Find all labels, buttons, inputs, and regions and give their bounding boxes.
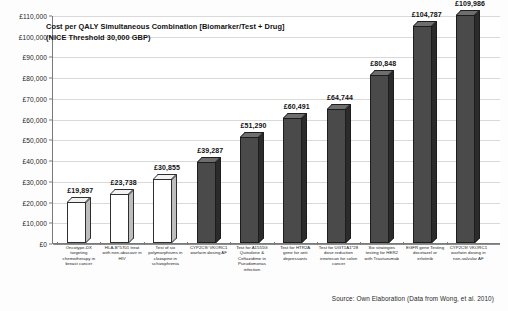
y-axis-tick-mark: [49, 161, 52, 162]
bar[interactable]: [283, 118, 302, 243]
y-axis-tick-mark: [49, 78, 52, 79]
x-axis-labels: Oncotype-DX targeting chemotherapy in br…: [52, 245, 500, 291]
x-axis-tick-mark: [100, 242, 101, 245]
bar-value-label: £39,287: [197, 147, 223, 154]
x-axis-tick-mark: [187, 242, 188, 245]
y-axis-tick-label: £30,000: [22, 178, 52, 185]
y-axis-tick-label: £70,000: [22, 95, 52, 102]
y-axis-tick-mark: [49, 119, 52, 120]
bar-value-label: £51,290: [240, 122, 266, 129]
x-axis-tick-mark: [57, 242, 58, 245]
bar-value-label: £64,744: [327, 94, 353, 101]
bar-side-face: [216, 157, 221, 243]
bar[interactable]: [413, 26, 432, 243]
x-axis-category-label: CYP2C9/ VKORC1 warfarin dosing in non-va…: [448, 245, 488, 261]
bar-side-face: [432, 21, 437, 243]
chart-title-line-1: Cost per QALY Simultaneous Combination […: [46, 22, 346, 33]
y-axis-tick-mark: [49, 98, 52, 99]
bar-series: £19,897£23,738£30,855£39,287£51,290£60,4…: [53, 16, 500, 243]
bar-value-label: £109,986: [455, 0, 485, 7]
bar-front-face: [240, 137, 259, 243]
x-axis-category-label: CYP2C9/ VKORC1 warfarin dosing AF: [189, 245, 229, 256]
bar-chart: £19,897£23,738£30,855£39,287£51,290£60,4…: [0, 0, 508, 311]
bar-front-face: [283, 118, 302, 243]
source-note: Source: Own Elaboration (Data from Wong,…: [332, 295, 494, 302]
bar-front-face: [110, 194, 129, 243]
bar[interactable]: [110, 194, 129, 243]
chart-title-line-2: (NICE Threshold 30,000 GBP): [46, 33, 346, 44]
bar-side-face: [259, 132, 264, 243]
bar-side-face: [346, 104, 351, 243]
bar-side-face: [172, 174, 177, 243]
bar-front-face: [197, 162, 216, 243]
bar-side-face: [302, 113, 307, 243]
x-axis-tick-mark: [447, 242, 448, 245]
bar[interactable]: [67, 202, 86, 243]
bar[interactable]: [153, 179, 172, 243]
bar-value-label: £19,897: [67, 187, 93, 194]
x-axis-category-label: Test of six polymorphisms in clozapine i…: [145, 245, 185, 267]
y-axis-tick-mark: [49, 140, 52, 141]
y-axis-tick-label: £60,000: [22, 116, 52, 123]
bar-value-label: £60,491: [284, 103, 310, 110]
bar-front-face: [153, 179, 172, 243]
x-axis-tick-mark: [360, 242, 361, 245]
x-axis-tick-mark: [403, 242, 404, 245]
y-axis-tick-mark: [49, 202, 52, 203]
bar-value-label: £80,848: [370, 60, 396, 67]
x-axis-category-label: Test for UGT1A1*28 dose reduction irinot…: [319, 245, 359, 267]
bar-value-label: £104,787: [412, 11, 442, 18]
y-axis-tick-label: £110,000: [19, 13, 52, 20]
y-axis-tick-mark: [49, 16, 52, 17]
x-axis-category-label: Test for A1555G Quinolone & Ceftazidime …: [232, 245, 272, 272]
x-axis-tick-mark: [144, 242, 145, 245]
y-axis-tick-mark: [49, 57, 52, 58]
x-axis-tick-mark: [317, 242, 318, 245]
x-axis-category-label: Test for HTR2A gene for anti depressants: [275, 245, 315, 261]
bar-value-label: £23,738: [111, 179, 137, 186]
bar-front-face: [370, 75, 389, 243]
y-axis-tick-label: £80,000: [22, 75, 52, 82]
bar-front-face: [413, 26, 432, 243]
bar-side-face: [475, 10, 480, 243]
x-axis-category-label: Oncotype-DX targeting chemotherapy in br…: [59, 245, 99, 267]
bar[interactable]: [327, 109, 346, 243]
bar-front-face: [327, 109, 346, 243]
x-axis-tick-mark: [274, 242, 275, 245]
y-axis-tick-label: £50,000: [22, 137, 52, 144]
bar-side-face: [129, 189, 134, 243]
plot-area: £19,897£23,738£30,855£39,287£51,290£60,4…: [52, 16, 500, 244]
y-axis-tick-mark: [49, 223, 52, 224]
y-axis-tick-label: £20,000: [22, 199, 52, 206]
bar[interactable]: [197, 162, 216, 243]
y-axis-tick-label: £40,000: [22, 158, 52, 165]
bar[interactable]: [370, 75, 389, 243]
x-axis-tick-mark: [230, 242, 231, 245]
bar-side-face: [389, 70, 394, 243]
bar-side-face: [86, 197, 91, 243]
y-axis-tick-label: £10,000: [22, 220, 52, 227]
bar-value-label: £30,855: [154, 164, 180, 171]
y-axis-tick-label: £90,000: [22, 54, 52, 61]
x-axis-category-label: EGFR gene Testing docetaxel or erlotinib: [405, 245, 445, 261]
x-axis-category-label: Six strategies testing for HER2 with Tra…: [362, 245, 402, 261]
bar-front-face: [67, 202, 86, 243]
chart-title: Cost per QALY Simultaneous Combination […: [46, 22, 346, 43]
bar[interactable]: [456, 15, 475, 243]
y-axis-tick-mark: [49, 181, 52, 182]
x-axis-category-label: HLA-B*5701 treat with non-abacavir in HI…: [102, 245, 142, 261]
plot-frame: £19,897£23,738£30,855£39,287£51,290£60,4…: [52, 16, 500, 244]
bar[interactable]: [240, 137, 259, 243]
bar-front-face: [456, 15, 475, 243]
